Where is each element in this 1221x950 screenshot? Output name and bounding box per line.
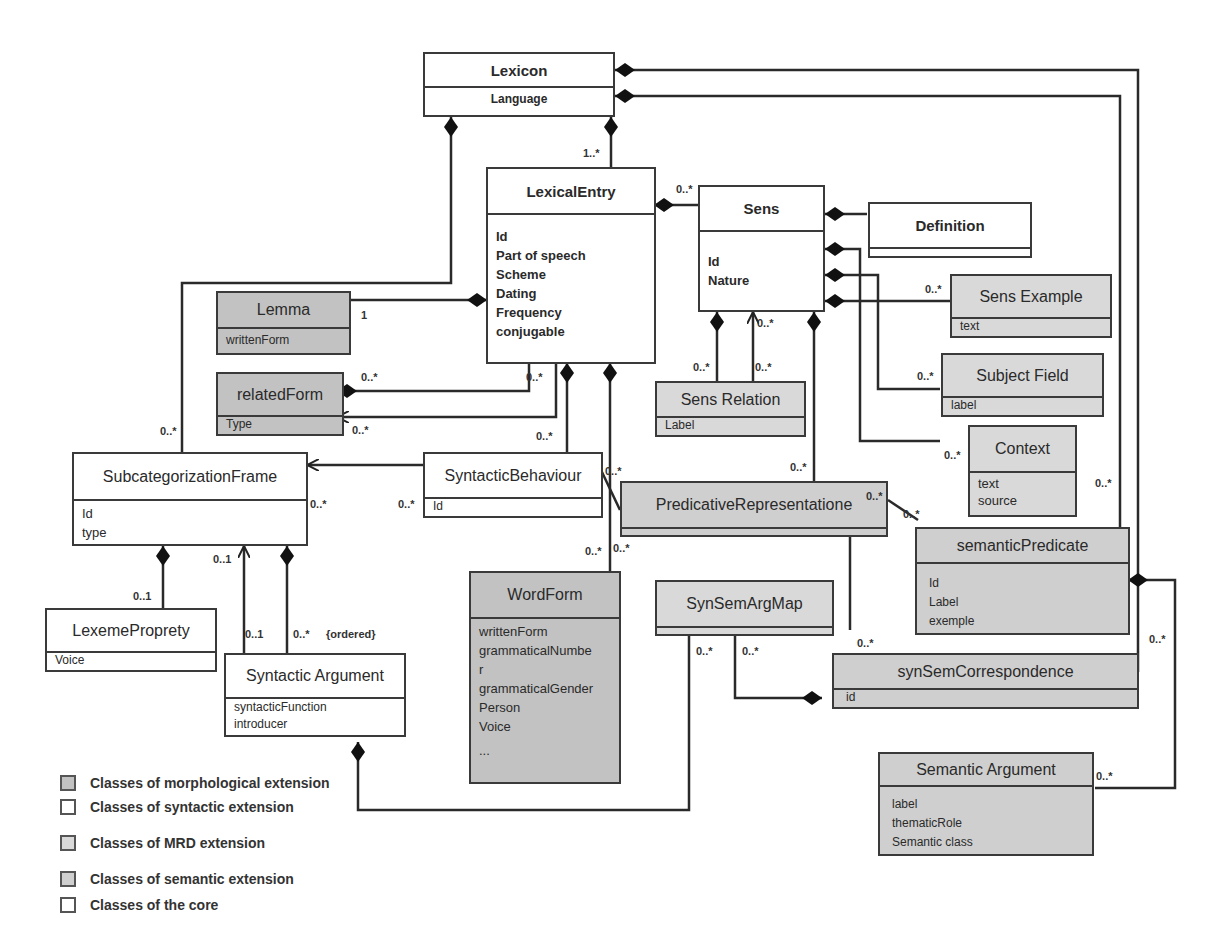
- multiplicity: 0..*: [1149, 633, 1166, 645]
- class-attr: id: [834, 690, 1137, 707]
- class-name: Lexicon: [425, 54, 613, 88]
- multiplicity: 0..1: [245, 628, 263, 640]
- legend-item-core: Classes of the core: [60, 897, 218, 913]
- class-name: Semantic Argument: [880, 754, 1092, 787]
- class-attr: source: [978, 492, 1067, 509]
- legend-swatch: [60, 835, 76, 851]
- class-attr: Voice: [479, 717, 611, 736]
- multiplicity: 0..*: [755, 361, 772, 373]
- multiplicity: 0..*: [790, 461, 807, 473]
- class-lexicon: Lexicon Language: [423, 52, 615, 117]
- class-attr: Person: [479, 698, 611, 717]
- class-related-form: relatedForm Type: [216, 372, 344, 436]
- class-attr: Part of speech: [496, 246, 646, 265]
- class-attr: conjugable: [496, 322, 646, 341]
- multiplicity: {ordered}: [326, 628, 376, 640]
- class-attr: grammaticalNumbe: [479, 641, 611, 660]
- class-attr: Nature: [708, 271, 815, 290]
- class-semantic-argument: Semantic Argument label thematicRole Sem…: [878, 752, 1094, 856]
- legend-item-morphological: Classes of morphological extension: [60, 775, 330, 791]
- legend-swatch: [60, 799, 76, 815]
- class-attr: Semantic class: [892, 833, 1084, 852]
- legend-item-syntactic: Classes of syntactic extension: [60, 799, 294, 815]
- multiplicity: 0..1: [133, 590, 151, 602]
- multiplicity: 0..*: [757, 317, 774, 329]
- class-attr: Id: [82, 504, 298, 523]
- class-name: Definition: [870, 204, 1030, 249]
- multiplicity: 0..*: [310, 498, 327, 510]
- class-attr: exemple: [929, 612, 1120, 631]
- class-lemma: Lemma writtenForm: [216, 291, 351, 355]
- class-attr: text: [952, 319, 1110, 336]
- class-semantic-predicate: semanticPredicate Id Label exemple: [915, 527, 1130, 635]
- class-name: Sens Example: [952, 276, 1110, 319]
- class-name: Lemma: [218, 293, 349, 329]
- class-attr: Label: [657, 418, 804, 435]
- multiplicity: 1: [361, 309, 367, 321]
- multiplicity: 0..*: [917, 370, 934, 382]
- class-lexeme-property: LexemeProprety Voice: [45, 608, 217, 672]
- legend-label: Classes of semantic extension: [90, 871, 294, 887]
- multiplicity: 0..*: [361, 371, 378, 383]
- class-syntactic-behaviour: SyntacticBehaviour Id: [423, 452, 603, 518]
- class-name: Sens: [700, 187, 823, 232]
- multiplicity: 0..*: [1096, 770, 1113, 782]
- class-name: Syntactic Argument: [226, 655, 404, 699]
- multiplicity: 1..*: [583, 147, 600, 159]
- multiplicity: 0..*: [585, 545, 602, 557]
- class-attr: syntacticFunction: [234, 699, 396, 716]
- class-name: PredicativeRepresentatione: [622, 483, 886, 529]
- class-predicative-representation: PredicativeRepresentatione: [620, 481, 888, 537]
- class-attr: type: [82, 523, 298, 542]
- multiplicity: 0..*: [944, 449, 961, 461]
- class-attr: text: [978, 475, 1067, 492]
- multiplicity: 0..*: [696, 645, 713, 657]
- multiplicity: 0..*: [613, 542, 630, 554]
- class-attr: Voice: [47, 653, 215, 670]
- class-attr: Language: [425, 88, 613, 115]
- class-attr: grammaticalGender: [479, 679, 611, 698]
- class-syn-sem-correspondence: synSemCorrespondence id: [832, 653, 1139, 709]
- class-attr: Id: [929, 574, 1120, 593]
- multiplicity: 0..1: [213, 553, 231, 565]
- class-attr: Label: [929, 593, 1120, 612]
- class-attr: Dating: [496, 284, 646, 303]
- class-lexical-entry: LexicalEntry Id Part of speech Scheme Da…: [486, 167, 656, 364]
- class-name: SyntacticBehaviour: [425, 454, 601, 499]
- class-attr: label: [943, 398, 1102, 415]
- class-syntactic-argument: Syntactic Argument syntacticFunction int…: [224, 653, 406, 737]
- class-attr: introducer: [234, 716, 396, 733]
- class-name: semanticPredicate: [917, 529, 1128, 564]
- class-attr: thematicRole: [892, 814, 1084, 833]
- class-attr: ...: [479, 741, 611, 760]
- legend-label: Classes of the core: [90, 897, 218, 913]
- multiplicity: 0..*: [742, 645, 759, 657]
- multiplicity: 0..*: [857, 637, 874, 649]
- class-name: SynSemArgMap: [657, 582, 832, 628]
- class-sens: Sens Id Nature: [698, 185, 825, 312]
- legend-label: Classes of morphological extension: [90, 775, 330, 791]
- class-context: Context text source: [968, 425, 1077, 517]
- class-name: synSemCorrespondence: [834, 655, 1137, 690]
- multiplicity: 0..*: [903, 508, 920, 520]
- class-attr: Type: [218, 417, 342, 434]
- class-attr: writtenForm: [479, 622, 611, 641]
- multiplicity: 0..*: [160, 425, 177, 437]
- class-name: Sens Relation: [657, 383, 804, 418]
- class-subject-field: Subject Field label: [941, 353, 1104, 417]
- legend-swatch: [60, 897, 76, 913]
- multiplicity: 0..*: [605, 465, 622, 477]
- legend-item-mrd: Classes of MRD extension: [60, 835, 265, 851]
- class-sens-relation: Sens Relation Label: [655, 381, 806, 437]
- class-attr: label: [892, 795, 1084, 814]
- legend-label: Classes of MRD extension: [90, 835, 265, 851]
- class-name: SubcategorizationFrame: [74, 454, 306, 501]
- class-name: LexicalEntry: [488, 169, 654, 215]
- class-name: relatedForm: [218, 374, 342, 417]
- multiplicity: 0..*: [293, 628, 310, 640]
- class-attr: Scheme: [496, 265, 646, 284]
- legend-item-semantic: Classes of semantic extension: [60, 871, 294, 887]
- multiplicity: 0..*: [866, 490, 883, 502]
- class-name: Subject Field: [943, 355, 1102, 398]
- class-name: WordForm: [471, 573, 619, 619]
